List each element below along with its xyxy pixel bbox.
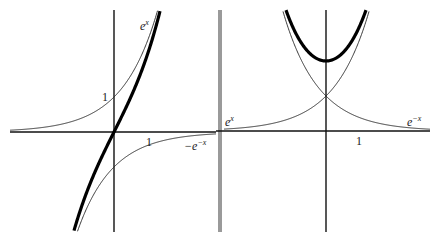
exponential-graphs-figure: ex 1 1 −e−x ex 1 e−x	[0, 0, 434, 244]
right-label-exp-neg-x: e−x	[407, 114, 422, 129]
left-curve-exp-x	[10, 11, 158, 131]
left-label-exp-x: ex	[140, 18, 149, 33]
right-label-exp-x: ex	[225, 114, 234, 129]
left-curve-thick-sum	[74, 11, 160, 230]
right-panel: ex 1 e−x	[216, 10, 430, 232]
left-label-neg-exp-neg-x: −e−x	[184, 138, 207, 153]
left-panel: ex 1 1 −e−x	[10, 10, 216, 232]
right-x-tick-one: 1	[356, 134, 362, 148]
left-x-tick-one: 1	[146, 135, 152, 149]
panel-divider	[218, 10, 222, 232]
left-y-tick-one: 1	[102, 90, 108, 104]
